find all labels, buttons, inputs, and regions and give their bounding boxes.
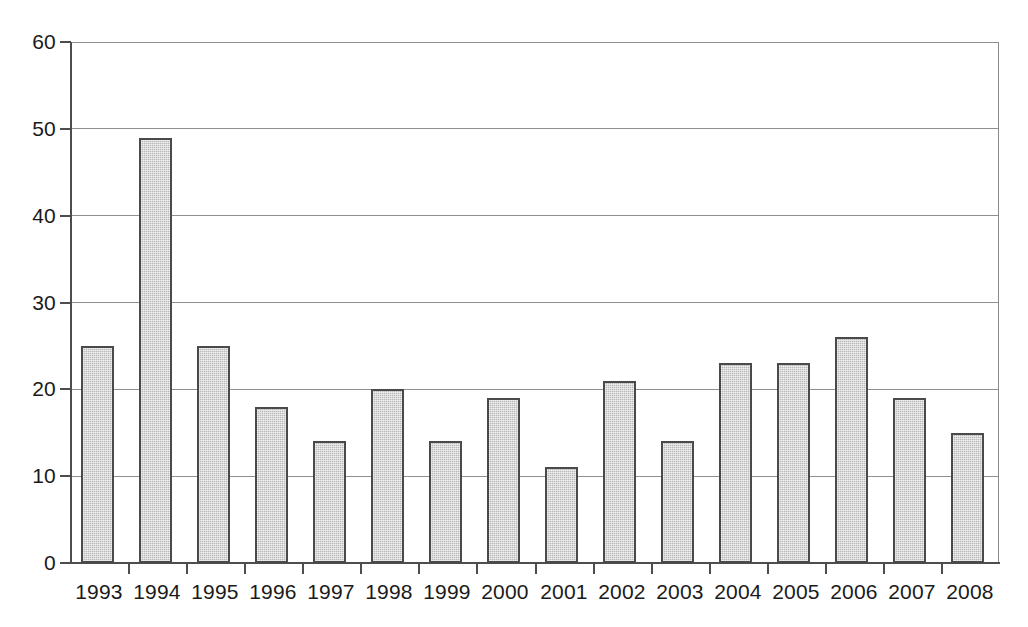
x-axis-tick-label: 2005	[767, 581, 825, 602]
bar-chart-figure: 0102030405060 19931994199519961997199819…	[0, 0, 1028, 627]
x-axis-tick-label: 2006	[825, 581, 883, 602]
x-axis-tick-label: 2002	[593, 581, 651, 602]
gridline	[70, 302, 999, 303]
x-axis-tick-label: 2000	[476, 581, 534, 602]
x-axis-tick	[825, 564, 827, 574]
bar	[255, 407, 288, 563]
bar	[893, 398, 926, 563]
bar	[313, 441, 346, 563]
gridline	[70, 128, 999, 129]
gridline	[70, 42, 999, 43]
y-axis-tick-label: 10	[32, 465, 56, 486]
bar	[835, 337, 868, 563]
x-axis-tick-label: 2008	[941, 581, 999, 602]
x-axis-tick	[593, 564, 595, 574]
y-axis-tick-label: 60	[32, 31, 56, 52]
x-axis-tick	[651, 564, 653, 574]
bar	[545, 467, 578, 563]
bar	[603, 381, 636, 563]
x-axis-tick	[302, 564, 304, 574]
x-axis-tick	[476, 564, 478, 574]
y-axis-line	[70, 42, 72, 564]
x-axis-tick-label: 2001	[535, 581, 593, 602]
bar	[81, 346, 114, 563]
y-axis-tick-label: 0	[44, 552, 56, 573]
x-axis-tick-label: 2007	[883, 581, 941, 602]
bar	[371, 389, 404, 563]
bar	[197, 346, 230, 563]
x-axis-tick	[128, 564, 130, 574]
x-axis-tick-label: 1993	[70, 581, 128, 602]
x-axis-tick	[186, 564, 188, 574]
x-axis-tick	[941, 564, 943, 574]
x-axis-tick-label: 2003	[651, 581, 709, 602]
y-axis-tick-label: 40	[32, 205, 56, 226]
y-axis-tick-label: 50	[32, 118, 56, 139]
x-axis-tick-label: 1999	[418, 581, 476, 602]
bar	[777, 363, 810, 563]
bar	[139, 138, 172, 563]
x-axis-tick-label: 2004	[709, 581, 767, 602]
bar	[429, 441, 462, 563]
bar	[951, 433, 984, 563]
bar	[719, 363, 752, 563]
x-axis-tick	[418, 564, 420, 574]
bar	[661, 441, 694, 563]
x-axis-tick	[535, 564, 537, 574]
x-axis-tick-label: 1997	[302, 581, 360, 602]
x-axis-tick-label: 1995	[186, 581, 244, 602]
x-axis-tick-label: 1996	[244, 581, 302, 602]
bar	[487, 398, 520, 563]
y-axis-tick-label: 20	[32, 378, 56, 399]
x-axis-tick-label: 1998	[360, 581, 418, 602]
x-axis-tick	[360, 564, 362, 574]
x-axis-tick-label: 1994	[128, 581, 186, 602]
x-axis-tick	[709, 564, 711, 574]
x-axis-tick	[767, 564, 769, 574]
x-axis-tick	[883, 564, 885, 574]
x-axis-tick	[244, 564, 246, 574]
plot-right-border	[998, 42, 999, 564]
gridline	[70, 215, 999, 216]
y-axis-tick-label: 30	[32, 292, 56, 313]
